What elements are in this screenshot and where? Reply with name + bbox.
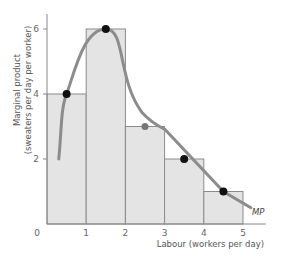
data-point [142, 123, 149, 130]
data-point [180, 155, 188, 163]
y-axis-label-line2: (sweaters per day per worker) [23, 26, 33, 155]
y-ticks: 246 [33, 24, 47, 164]
x-tick-label: 3 [162, 228, 168, 238]
data-point [102, 25, 110, 33]
y-axis-label-line1: Marginal product [12, 53, 22, 126]
bar-3 [125, 127, 164, 225]
x-tick-label: 0 [34, 228, 40, 238]
curve-label-mp: MP [252, 207, 265, 217]
x-tick-label: 4 [201, 228, 207, 238]
bar-5 [204, 192, 243, 225]
data-point [63, 90, 71, 98]
x-tick-label: 2 [123, 228, 129, 238]
y-tick-label: 2 [33, 154, 39, 164]
marginal-product-chart: 246 012345 MP Labour (workers per day) M… [0, 0, 283, 259]
x-axis-label: Labour (workers per day) [157, 239, 264, 249]
bar-4 [165, 159, 204, 224]
data-point [219, 188, 227, 196]
bar-1 [47, 94, 86, 224]
y-tick-label: 6 [33, 24, 39, 34]
x-ticks: 012345 [34, 228, 246, 238]
x-tick-label: 5 [240, 228, 246, 238]
bar-2 [86, 29, 125, 224]
x-tick-label: 1 [83, 228, 89, 238]
y-tick-label: 4 [33, 89, 39, 99]
